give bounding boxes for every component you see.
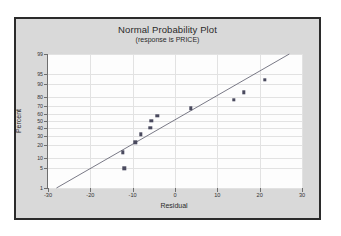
- x-axis-tick-label: -30: [44, 192, 52, 198]
- x-axis-tick-label: 30: [299, 192, 305, 198]
- y-axis-tick-label: 90: [37, 81, 43, 87]
- data-point: [263, 78, 266, 81]
- data-point: [156, 114, 159, 117]
- y-axis-tick-label: 30: [37, 133, 43, 139]
- y-axis-tick-label: 10: [37, 155, 43, 161]
- y-axis-tick-label: 1: [40, 185, 43, 191]
- chart-figure: Normal Probability Plot (response is PRI…: [14, 17, 321, 220]
- data-point: [139, 133, 142, 136]
- reference-line-layer: [48, 54, 302, 188]
- data-point: [122, 167, 125, 170]
- y-axis-tick-label: 20: [37, 142, 43, 148]
- normal-reference-line: [56, 54, 289, 188]
- data-point: [232, 98, 235, 101]
- y-axis-tick-label: 99: [37, 51, 43, 57]
- x-axis-tick-label: 10: [214, 192, 220, 198]
- data-point: [134, 141, 137, 144]
- x-axis-tick-label: 20: [257, 192, 263, 198]
- chart-subtitle: (response is PRICE): [16, 36, 319, 43]
- data-point: [242, 91, 245, 94]
- x-axis-tick-label: 0: [173, 192, 176, 198]
- y-axis-tick-label: 95: [37, 71, 43, 77]
- data-point: [189, 107, 192, 110]
- y-axis-tick-label: 50: [37, 118, 43, 124]
- x-axis-tick-label: -20: [86, 192, 94, 198]
- data-point: [149, 126, 152, 129]
- y-axis-tick-label: 60: [37, 111, 43, 117]
- plot-area: -30-20-100102030151020304050607080909599: [47, 54, 302, 189]
- chart-title: Normal Probability Plot: [16, 24, 319, 35]
- x-axis-tick-label: -10: [129, 192, 137, 198]
- y-axis-tick-label: 40: [37, 125, 43, 131]
- y-axis-tick-label: 80: [37, 94, 43, 100]
- data-point: [150, 119, 153, 122]
- y-axis-tick-label: 70: [37, 103, 43, 109]
- data-point: [121, 150, 124, 153]
- x-gridline: [302, 54, 303, 188]
- y-axis-tick-label: 5: [40, 165, 43, 171]
- chart-title-block: Normal Probability Plot (response is PRI…: [16, 24, 319, 43]
- y-axis-tick: [44, 188, 48, 189]
- y-axis-title: Percent: [15, 109, 22, 133]
- x-axis-title: Residual: [47, 202, 301, 209]
